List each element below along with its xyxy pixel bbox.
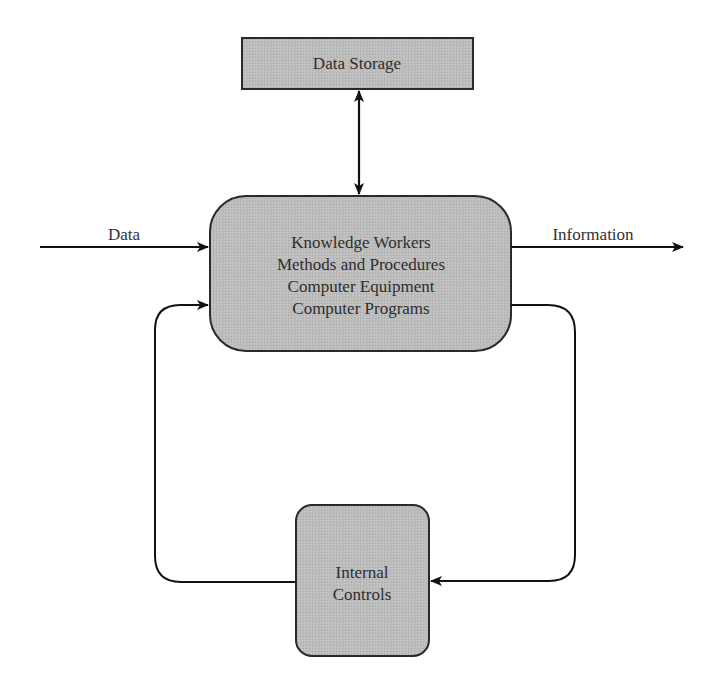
information-output-edge: Information — [511, 225, 683, 247]
processing-line-computer-equipment: Computer Equipment — [288, 277, 435, 296]
processing-node: Knowledge Workers Methods and Procedures… — [210, 196, 511, 351]
data-storage-node: Data Storage — [242, 38, 473, 89]
data-input-label: Data — [108, 225, 141, 244]
internal-controls-line-1: Internal — [336, 563, 389, 582]
diagram-canvas: Data Storage Knowledge Workers Methods a… — [0, 0, 713, 686]
internal-controls-node: Internal Controls — [296, 505, 429, 656]
information-output-label: Information — [552, 225, 634, 244]
data-input-edge: Data — [40, 225, 208, 247]
processing-line-knowledge-workers: Knowledge Workers — [291, 233, 430, 252]
processing-line-methods-procedures: Methods and Procedures — [277, 255, 445, 274]
processing-line-computer-programs: Computer Programs — [292, 299, 429, 318]
internal-controls-line-2: Controls — [333, 585, 392, 604]
data-storage-label: Data Storage — [313, 54, 401, 73]
